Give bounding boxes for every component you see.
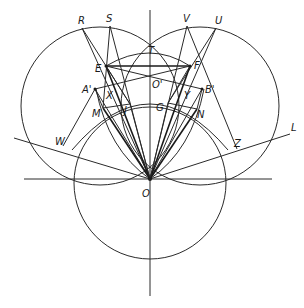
label-a-prime: A' (81, 84, 92, 95)
label-x: X (105, 90, 114, 101)
label-v: V (183, 13, 191, 24)
label-t: T (148, 45, 155, 56)
label-o-prime: O' (152, 79, 163, 90)
point-f (189, 65, 192, 68)
label-n: N (197, 109, 205, 120)
label-f: F (194, 60, 200, 71)
label-s: S (106, 13, 113, 24)
label-e: E (95, 63, 102, 74)
line-wo (14, 138, 150, 179)
label-w: W (55, 136, 66, 147)
line-no (150, 109, 197, 179)
line-go (150, 103, 168, 179)
line-wa (63, 89, 95, 146)
point-b-prime (201, 88, 204, 91)
label-m: M (92, 108, 101, 119)
label-r: R (78, 15, 85, 26)
label-y: Y (184, 90, 191, 101)
geometric-diagram: R S T V U E F A' B' X Y O' M J G N W Z L… (0, 0, 304, 308)
label-l: L (291, 122, 297, 133)
point-e (105, 65, 108, 68)
point-a-prime (94, 88, 97, 91)
label-z: Z (233, 138, 242, 149)
label-u: U (215, 15, 223, 26)
label-o: O (142, 188, 150, 199)
label-g: G (156, 102, 164, 113)
point-o (148, 177, 152, 181)
label-b-prime: B' (205, 84, 215, 95)
